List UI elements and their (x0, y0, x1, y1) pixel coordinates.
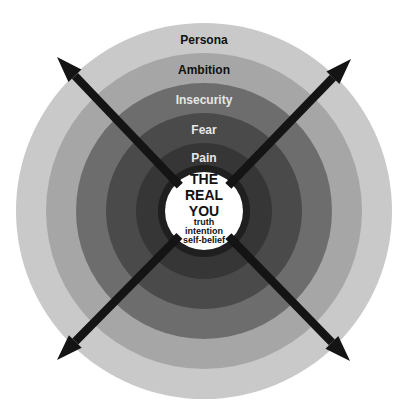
ring-label-pain: Pain (191, 151, 216, 165)
ring-label-ambition: Ambition (178, 63, 230, 77)
onion-diagram: THEREALYOUtruthintentionself-belief Pers… (0, 0, 405, 418)
core-value-self-belief: self-belief (183, 235, 226, 245)
core-title-line: THE (190, 171, 218, 187)
ring-label-insecurity: Insecurity (176, 93, 233, 107)
core-circle-group: THEREALYOUtruthintentionself-belief (165, 171, 243, 250)
ring-label-fear: Fear (191, 123, 217, 137)
ring-label-persona: Persona (180, 33, 228, 47)
core-title-line: REAL (185, 187, 224, 203)
